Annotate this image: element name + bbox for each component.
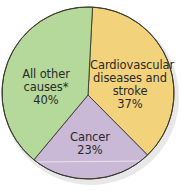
slice-value-other: 40%: [12, 94, 80, 107]
slice-value-cardiovascular: 37%: [90, 98, 170, 111]
slice-label-other: All other causes* 40%: [12, 68, 80, 107]
slice-value-cancer: 23%: [58, 144, 122, 157]
slice-label-cancer: Cancer 23%: [58, 131, 122, 157]
slice-label-cardiovascular: Cardiovascular diseases and stroke 37%: [90, 59, 170, 111]
